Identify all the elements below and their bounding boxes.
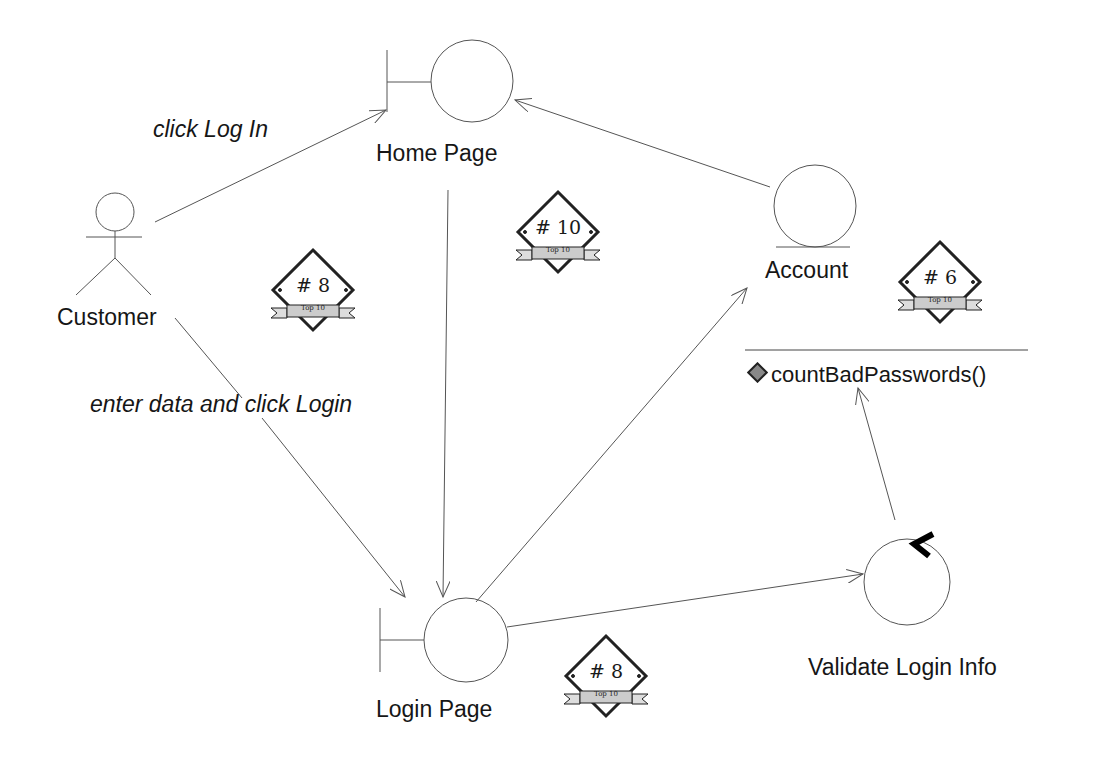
control-icon bbox=[864, 534, 950, 625]
boundary-icon bbox=[380, 598, 508, 682]
badge-ribbon: Top 10 bbox=[898, 296, 982, 304]
operation-label: countBadPasswords() bbox=[771, 362, 986, 387]
actor-icon bbox=[76, 193, 151, 295]
top10-badge: # 6 Top 10 bbox=[898, 240, 982, 324]
boundary-icon bbox=[387, 40, 513, 122]
badge-number: # 8 bbox=[564, 660, 648, 682]
badge-ribbon: Top 10 bbox=[271, 304, 355, 312]
top10-badge: # 8 Top 10 bbox=[271, 248, 355, 332]
operation-count-bad-passwords: countBadPasswords() bbox=[750, 362, 986, 388]
control-label-validate-login-info: Validate Login Info bbox=[808, 656, 997, 679]
badge-number: # 6 bbox=[898, 266, 982, 288]
badge-number: # 8 bbox=[271, 274, 355, 296]
boundary-label-home-page: Home Page bbox=[376, 142, 497, 165]
message-label-click-log-in: click Log In bbox=[153, 118, 268, 141]
boundary-label-login-page: Login Page bbox=[376, 698, 492, 721]
badge-ribbon: Top 10 bbox=[516, 246, 600, 254]
message-label-enter-data: enter data and click Login bbox=[90, 393, 352, 416]
badge-number: # 10 bbox=[516, 216, 600, 238]
actor-label-customer: Customer bbox=[57, 306, 157, 329]
top10-badge: # 10 Top 10 bbox=[516, 190, 600, 274]
entity-label-account: Account bbox=[765, 259, 848, 282]
top10-badge: # 8 Top 10 bbox=[564, 634, 648, 718]
badge-ribbon: Top 10 bbox=[564, 690, 648, 698]
entity-icon bbox=[774, 165, 856, 247]
operation-icon bbox=[747, 362, 768, 383]
